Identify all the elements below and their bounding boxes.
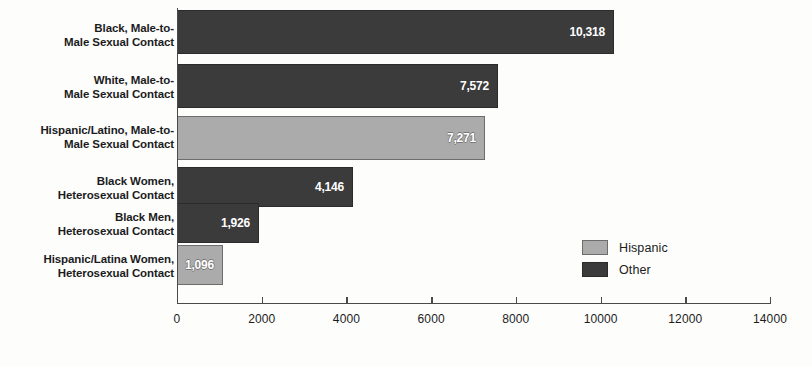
y-axis-line	[177, 8, 178, 304]
horizontal-bar-chart: Black, Male-to- Male Sexual ContactWhite…	[0, 0, 812, 366]
bar-value-label: 10,318	[569, 25, 613, 39]
category-label: Black, Male-to- Male Sexual Contact	[0, 22, 174, 49]
bar[interactable]: 7,572	[177, 64, 498, 108]
category-label: Hispanic/Latino, Male-to- Male Sexual Co…	[0, 124, 174, 151]
x-tick-label: 10000	[566, 312, 636, 326]
chart-legend: HispanicOther	[582, 240, 668, 284]
bar[interactable]: 7,271	[177, 116, 485, 160]
bar[interactable]: 1,926	[177, 203, 259, 243]
bar-value-label: 4,146	[315, 180, 352, 194]
legend-swatch-icon	[582, 262, 608, 277]
legend-item[interactable]: Hispanic	[582, 240, 668, 255]
category-label: Hispanic/Latina Women, Heterosexual Cont…	[0, 253, 174, 280]
bar[interactable]: 10,318	[177, 10, 614, 54]
x-tick-mark	[685, 297, 686, 304]
legend-item[interactable]: Other	[582, 262, 668, 277]
x-tick-mark	[770, 297, 771, 304]
x-tick-label: 8000	[481, 312, 551, 326]
bar[interactable]: 1,096	[177, 245, 223, 285]
x-tick-mark	[431, 297, 432, 304]
x-tick-mark	[601, 297, 602, 304]
legend-swatch-icon	[582, 240, 608, 255]
legend-label: Hispanic	[619, 241, 668, 255]
bar[interactable]: 4,146	[177, 167, 353, 207]
x-tick-label: 2000	[227, 312, 297, 326]
category-label: White, Male-to- Male Sexual Contact	[0, 74, 174, 101]
bar-value-label: 7,271	[447, 131, 484, 145]
x-axis-line	[177, 303, 770, 304]
x-tick-mark	[262, 297, 263, 304]
x-tick-mark	[346, 297, 347, 304]
x-tick-label: 4000	[311, 312, 381, 326]
bar-value-label: 1,926	[221, 216, 258, 230]
x-tick-label: 12000	[650, 312, 720, 326]
x-tick-label: 14000	[735, 312, 805, 326]
category-label: Black Men, Heterosexual Contact	[0, 211, 174, 238]
x-tick-label: 0	[142, 312, 212, 326]
bar-value-label: 1,096	[185, 258, 222, 272]
legend-label: Other	[619, 263, 651, 277]
category-label: Black Women, Heterosexual Contact	[0, 175, 174, 202]
x-tick-label: 6000	[396, 312, 466, 326]
bar-value-label: 7,572	[460, 79, 497, 93]
x-tick-mark	[516, 297, 517, 304]
